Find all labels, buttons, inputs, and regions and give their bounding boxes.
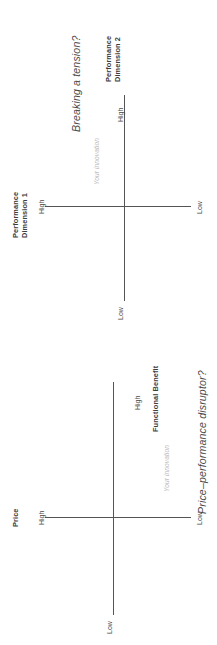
chart1-y-axis-title-line1: Performance — [104, 36, 113, 82]
chart1-horizontal-axis — [45, 206, 191, 207]
chart2-horizontal-axis — [45, 517, 191, 518]
chart2-headline: Price–performance disruptor? — [196, 370, 209, 514]
chart2-vertical-axis — [113, 382, 114, 615]
chart1-x-tick-high: High — [38, 200, 46, 214]
chart-price-performance-disruptor: Price–performance disruptor? Price Funct… — [0, 322, 217, 645]
chart1-y-tick-high: High — [117, 108, 125, 122]
chart2-annotation-your-innovation: Your innovation — [163, 445, 171, 492]
chart1-x-axis-title-line2: Dimension 1 — [21, 192, 30, 238]
chart2-y-tick-low: Low — [106, 621, 114, 634]
chart1-x-tick-low: Low — [196, 201, 204, 214]
chart1-vertical-axis — [124, 95, 125, 301]
chart2-x-axis-title-line1: Price — [11, 508, 20, 527]
chart2-y-axis-title-line1: Functional Benefit — [151, 366, 160, 432]
chart1-annotation-your-innovation: Your innovation — [93, 138, 101, 185]
chart1-headline: Breaking a tension? — [70, 36, 83, 133]
chart1-x-axis-title-line1: Performance — [11, 192, 20, 238]
chart1-y-axis-title-line2: Dimension 2 — [114, 36, 123, 82]
chart1-x-axis-title: Performance Dimension 1 — [12, 192, 29, 238]
chart1-y-tick-low: Low — [117, 307, 125, 320]
chart2-y-axis-title: Functional Benefit — [152, 366, 161, 432]
chart2-x-axis-title: Price — [12, 508, 21, 527]
chart2-x-tick-low: Low — [196, 512, 204, 525]
chart-breaking-a-tension: Breaking a tension? Performance Dimensio… — [0, 0, 217, 322]
chart2-x-tick-high: High — [38, 511, 46, 525]
chart2-y-tick-high: High — [134, 396, 142, 410]
chart1-y-axis-title: Performance Dimension 2 — [105, 36, 122, 82]
